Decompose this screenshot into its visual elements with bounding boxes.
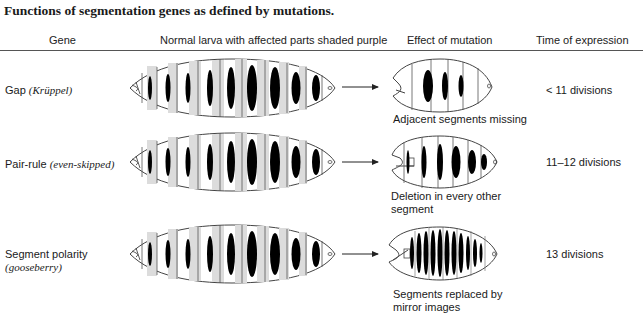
mutant-larva-segment-polarity	[389, 227, 497, 280]
normal-larva-segment-polarity	[130, 225, 335, 283]
normal-larva-pair-rule	[130, 133, 335, 191]
normal-larva-gap	[130, 59, 335, 117]
larva-diagrams	[0, 0, 643, 320]
mutant-larva-pair-rule	[392, 136, 497, 188]
mutant-larva-gap	[393, 59, 492, 112]
